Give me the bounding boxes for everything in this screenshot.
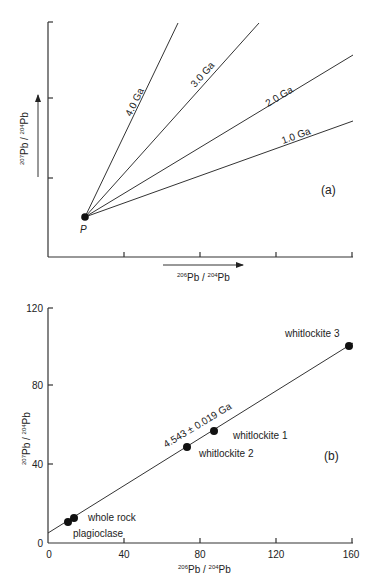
label-plagioclase: plagioclase — [73, 528, 123, 539]
label-whitlockite-1: whitlockite 1 — [232, 430, 288, 441]
y-tick-label: 80 — [32, 380, 44, 391]
x-tick-label: 0 — [46, 549, 52, 560]
point-whitlockite-2 — [183, 443, 191, 451]
point-whitlockite-1 — [210, 427, 218, 435]
x-tick-label: 40 — [118, 549, 130, 560]
panel-label-a: (a) — [321, 183, 336, 197]
isochron-lines — [85, 23, 353, 217]
point-p — [81, 213, 89, 221]
x-tick-label: 120 — [268, 549, 285, 560]
panel-a-xlabel: 206Pb / 204Pb — [177, 272, 230, 283]
panel-a-axes — [48, 22, 353, 257]
panel-label-b: (b) — [324, 449, 339, 463]
point-p-label: P — [80, 224, 87, 235]
label-whitlockite-3: whitlockite 3 — [284, 328, 340, 339]
y-tick-label: 120 — [26, 303, 43, 314]
panel-b: 120 80 40 0 0 40 80 120 160 4.543 ± 0.01… — [21, 303, 360, 575]
label-4-0-ga: 4.0 Ga — [123, 86, 146, 118]
point-whole-rock — [70, 514, 78, 522]
label-whole-rock: whole rock — [87, 512, 137, 523]
label-1-0-ga: 1.0 Ga — [280, 125, 312, 146]
x-tick-label: 80 — [194, 549, 206, 560]
isochron-fit-line — [48, 343, 353, 533]
panel-a-ylabel: 207Pb / 204Pb — [19, 112, 30, 165]
label-2-0-ga: 2.0 Ga — [263, 84, 295, 109]
panel-b-xlabel: 206Pb / 204Pb — [178, 564, 231, 575]
label-whitlockite-2: whitlockite 2 — [198, 448, 254, 459]
x-tick-label: 160 — [343, 549, 360, 560]
isochron-2-0-ga — [85, 55, 353, 217]
y-tick-label: 0 — [37, 538, 43, 549]
point-whitlockite-3 — [345, 342, 353, 350]
panel-b-ylabel: 207Pb / 204Pb — [21, 412, 32, 465]
figure: 4.0 Ga 3.0 Ga 2.0 Ga 1.0 Ga P (a) 206Pb … — [0, 0, 374, 583]
isochron-4-0-ga — [85, 23, 178, 217]
isochron-1-0-ga — [85, 121, 353, 217]
isochron-3-0-ga — [85, 23, 259, 217]
fit-line-label: 4.543 ± 0.019 Ga — [161, 400, 233, 449]
panel-a: 4.0 Ga 3.0 Ga 2.0 Ga 1.0 Ga P (a) 206Pb … — [19, 22, 353, 283]
y-tick-label: 40 — [32, 459, 44, 470]
